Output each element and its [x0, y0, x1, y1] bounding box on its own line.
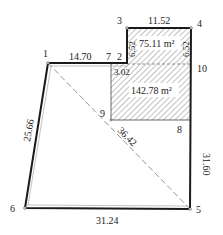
- point-label-5: 5: [196, 204, 201, 215]
- point-label-9: 9: [100, 108, 105, 119]
- point-label-3: 3: [117, 15, 122, 26]
- length-6-5: 31.24: [96, 215, 119, 226]
- length-2-3: 6.52: [127, 41, 137, 57]
- point-label-1: 1: [43, 48, 48, 59]
- upper-area-label: 75.11 m²: [139, 38, 174, 49]
- point-label-6: 6: [10, 203, 15, 214]
- length-4-5: 31.60: [201, 153, 212, 176]
- parcel-diagram: 1 7 2 3 4 10 9 8 6 5 14.70 11.52 6.52 6.…: [0, 0, 223, 235]
- length-1-6: 25.66: [21, 118, 36, 142]
- point-label-4: 4: [197, 18, 202, 29]
- point-label-2: 2: [117, 51, 122, 62]
- point-label-7: 7: [106, 51, 111, 62]
- length-1-7: 14.70: [69, 51, 92, 62]
- lower-area-label: 142.78 m²: [131, 85, 172, 96]
- point-label-8: 8: [177, 124, 182, 135]
- length-7-9: 3.02: [114, 67, 130, 77]
- length-3-4: 11.52: [148, 15, 170, 26]
- point-label-10: 10: [197, 63, 207, 74]
- length-4-10: 6.52: [181, 41, 191, 57]
- boundary-6-5-inner: [27, 205, 188, 206]
